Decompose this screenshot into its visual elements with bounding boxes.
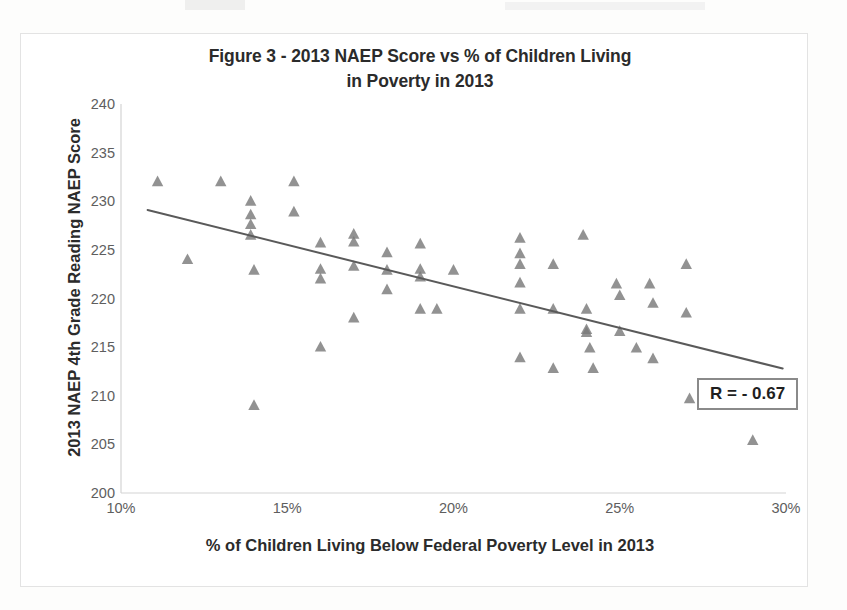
data-point-marker [514,248,525,259]
data-point-marker [288,206,299,217]
data-point-marker [245,209,256,220]
data-point-marker [577,229,588,240]
data-point-marker [248,399,259,410]
data-point-marker [747,434,758,445]
data-point-marker [381,247,392,258]
data-point-marker [514,277,525,288]
y-tick-label: 200 [73,485,115,501]
data-point-marker [548,362,559,373]
x-tick-label: 20% [439,500,468,516]
plot-area [121,104,786,493]
data-point-marker [215,176,226,187]
chart-title-line-1: Figure 3 - 2013 NAEP Score vs % of Child… [120,44,720,69]
data-point-marker [684,392,695,403]
data-point-marker [152,176,163,187]
trendline [148,210,783,369]
x-axis-tick-labels: 10%15%20%25%30% [121,500,786,522]
data-point-marker [315,341,326,352]
x-tick-label: 30% [771,500,800,516]
data-point-marker [514,232,525,243]
x-tick-label: 10% [106,500,135,516]
data-point-marker [245,195,256,206]
data-point-marker [315,237,326,248]
data-point-marker [514,258,525,269]
data-point-marker [647,297,658,308]
x-tick-label: 25% [605,500,634,516]
data-point-marker [348,312,359,323]
y-axis-title: 2013 NAEP 4th Grade Reading NAEP Score [65,98,84,478]
data-point-marker [681,258,692,269]
data-point-marker [514,352,525,363]
data-point-marker [415,238,426,249]
axis-lines [121,104,786,493]
chart-title: Figure 3 - 2013 NAEP Score vs % of Child… [120,44,720,94]
data-point-marker [182,253,193,264]
data-point-marker [611,278,622,289]
x-tick-label: 15% [273,500,302,516]
data-point-marker [548,258,559,269]
data-point-marker [614,289,625,300]
scatter-plot-svg [121,104,786,493]
data-point-marker [315,273,326,284]
data-point-marker [647,353,658,364]
data-point-marker [584,342,595,353]
data-point-marker [415,303,426,314]
data-point-marker [581,303,592,314]
x-axis-title: % of Children Living Below Federal Pover… [80,536,780,555]
scan-smudge-secondary [505,2,705,10]
data-point-marker [248,264,259,275]
data-point-marker [431,303,442,314]
data-point-marker [644,278,655,289]
chart-title-line-2: in Poverty in 2013 [120,69,720,94]
data-point-marker [631,342,642,353]
correlation-annotation: R = - 0.67 [697,378,798,410]
data-point-marker [288,176,299,187]
data-point-marker [587,362,598,373]
data-point-marker [245,218,256,229]
data-point-marker [315,263,326,274]
data-point-marker [381,284,392,295]
data-point-marker [448,264,459,275]
scan-smudge [185,0,245,10]
data-point-marker [681,307,692,318]
data-point-markers [152,176,759,445]
